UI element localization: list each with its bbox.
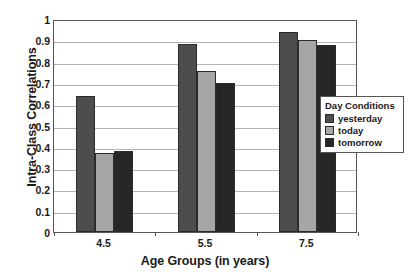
- y-axis-tick-0.9: 0.9: [18, 35, 50, 47]
- y-axis-tick-0.6: 0.6: [18, 99, 50, 111]
- bar-today-5.5: [197, 71, 216, 232]
- y-axis-tick-0: 0: [18, 227, 50, 239]
- bar-today-4.5: [95, 153, 114, 232]
- legend-label-yesterday: yesterday: [338, 113, 382, 124]
- legend-item-today: today: [325, 125, 400, 136]
- bar-group-4.5: [76, 21, 133, 232]
- x-axis-title: Age Groups (in years): [53, 254, 357, 268]
- y-axis-tick-1: 1: [18, 14, 50, 26]
- x-axis-tick-5.5: 5.5: [175, 237, 235, 249]
- legend-item-tomorrow: tomorrow: [325, 137, 400, 148]
- bar-yesterday-4.5: [76, 96, 95, 232]
- y-axis-tick-0.3: 0.3: [18, 163, 50, 175]
- y-axis-tick-0.1: 0.1: [18, 206, 50, 218]
- x-tick-mark-end: [358, 232, 359, 236]
- x-tick-mark-0: [54, 232, 55, 236]
- y-axis-tick-0.5: 0.5: [18, 121, 50, 133]
- x-axis-tick-7.5: 7.5: [276, 237, 336, 249]
- bar-today-7.5: [298, 40, 317, 232]
- bars-layer: [54, 21, 356, 232]
- bar-tomorrow-5.5: [216, 83, 235, 232]
- legend: Day Conditions yesterdaytodaytomorrow: [320, 96, 404, 153]
- y-axis-tick-0.4: 0.4: [18, 142, 50, 154]
- y-axis-tick-labels: 00.10.20.30.40.50.60.70.80.91: [18, 20, 50, 233]
- legend-label-tomorrow: tomorrow: [338, 137, 382, 148]
- x-axis-tick-4.5: 4.5: [74, 237, 134, 249]
- x-tick-mark-2: [257, 232, 258, 236]
- legend-items: yesterdaytodaytomorrow: [325, 113, 400, 148]
- bar-tomorrow-4.5: [114, 151, 133, 232]
- bar-group-5.5: [178, 21, 235, 232]
- legend-title: Day Conditions: [325, 100, 400, 112]
- legend-swatch-tomorrow: [325, 138, 334, 147]
- y-axis-tick-0.7: 0.7: [18, 78, 50, 90]
- bar-chart: Intra-Class Correlations 00.10.20.30.40.…: [0, 0, 412, 276]
- legend-label-today: today: [338, 125, 363, 136]
- y-axis-tick-0.8: 0.8: [18, 57, 50, 69]
- plot-area: [53, 20, 357, 233]
- y-axis-tick-0.2: 0.2: [18, 184, 50, 196]
- bar-yesterday-7.5: [279, 32, 298, 232]
- legend-item-yesterday: yesterday: [325, 113, 400, 124]
- bar-yesterday-5.5: [178, 44, 197, 233]
- x-axis-tick-labels: 4.55.57.5: [53, 237, 357, 253]
- legend-swatch-yesterday: [325, 114, 334, 123]
- x-tick-mark-1: [155, 232, 156, 236]
- legend-swatch-today: [325, 126, 334, 135]
